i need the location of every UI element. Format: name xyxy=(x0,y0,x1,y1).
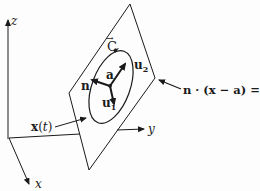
path-pointer xyxy=(55,118,86,127)
label-n: n xyxy=(81,79,90,93)
path-label: x(t) xyxy=(31,120,52,134)
curve-vector-arrow: → xyxy=(106,33,114,43)
x-axis xyxy=(9,138,29,184)
y-axis-hidden-part xyxy=(9,134,80,138)
equation-pointer xyxy=(159,80,181,89)
y-axis-label: y xyxy=(147,122,155,136)
x-axis-label: x xyxy=(35,177,42,191)
label-u1: u1 xyxy=(102,96,116,112)
diagram-svg: z y x C → n a u1 u2 x(t) n · (x − a) = 0 xyxy=(0,0,260,191)
y-axis xyxy=(117,129,144,130)
plane-equation: n · (x − a) = 0 xyxy=(183,83,260,97)
label-u2: u2 xyxy=(134,58,148,74)
label-a: a xyxy=(106,68,114,82)
diagram-canvas: z y x C → n a u1 u2 x(t) n · (x − a) = 0 xyxy=(0,0,260,191)
z-axis-label: z xyxy=(10,14,18,28)
